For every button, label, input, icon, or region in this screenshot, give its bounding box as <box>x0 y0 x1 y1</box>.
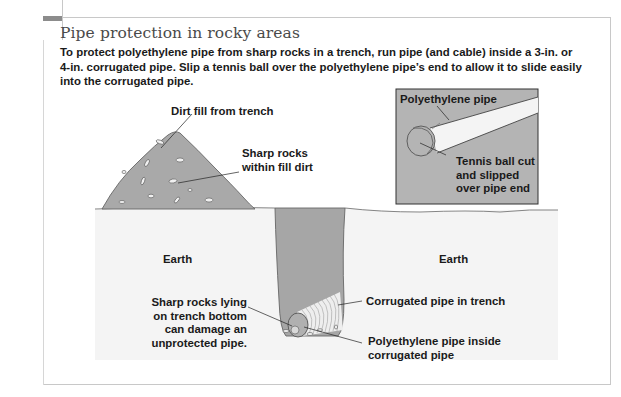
label-line: within fill dirt <box>242 161 313 175</box>
label-poly-inside: Polyethylene pipe inside corrugated pipe <box>368 335 501 362</box>
inset-label-tennis-ball: Tennis ball cut and slipped over pipe en… <box>456 155 535 196</box>
label-sharp-rocks-bottom: Sharp rocks lying on trench bottom can d… <box>115 296 247 350</box>
label-line: Sharp rocks lying <box>115 296 247 310</box>
pipe-diagram <box>0 0 621 397</box>
label-line: Polyethylene pipe inside <box>368 335 501 349</box>
label-earth-left: Earth <box>163 253 192 267</box>
label-line: on trench bottom <box>115 310 247 324</box>
label-corrugated-pipe: Corrugated pipe in trench <box>366 295 505 309</box>
label-earth-right: Earth <box>439 253 468 267</box>
poly-pipe-end <box>291 326 299 334</box>
label-line: unprotected pipe. <box>115 337 247 351</box>
label-sharp-rocks-fill: Sharp rocks within fill dirt <box>242 147 313 174</box>
label-line: over pipe end <box>456 182 535 196</box>
label-line: Sharp rocks <box>242 147 313 161</box>
label-line: can damage an <box>115 323 247 337</box>
label-line: corrugated pipe <box>368 349 501 363</box>
label-line: and slipped <box>456 169 535 183</box>
tennis-ball <box>407 126 435 156</box>
label-dirt-fill: Dirt fill from trench <box>171 105 274 119</box>
label-line: Tennis ball cut <box>456 155 535 169</box>
inset-label-poly-pipe: Polyethylene pipe <box>400 93 497 107</box>
dirt-mound <box>102 132 255 209</box>
